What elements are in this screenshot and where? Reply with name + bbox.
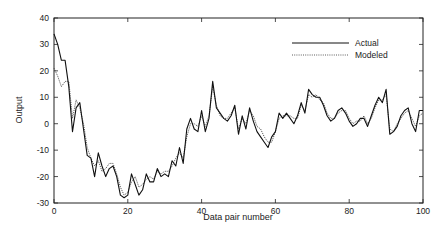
legend: Actual Modeled [292,38,388,60]
y-tick-label: -20 [37,172,50,182]
x-tick-label: 80 [344,206,354,216]
y-axis-title: Output [14,96,24,124]
x-tick-label: 100 [416,206,430,216]
x-tick-label: 0 [52,206,57,216]
legend-modeled-label: Modeled [355,50,388,60]
x-axis-title: Data pair number [203,212,273,222]
y-tick-label: 0 [44,119,49,129]
y-tick-label: 10 [40,92,50,102]
legend-actual-label: Actual [355,38,379,48]
y-tick-label: 40 [40,13,50,23]
y-tick-label: 30 [40,39,50,49]
y-tick-label: -10 [37,145,50,155]
y-tick-label: -30 [37,198,50,208]
y-tick-label: 20 [40,66,50,76]
x-tick-label: 20 [123,206,133,216]
line-chart: -30-20-10010203040 020406080100 Actual M… [0,0,438,232]
